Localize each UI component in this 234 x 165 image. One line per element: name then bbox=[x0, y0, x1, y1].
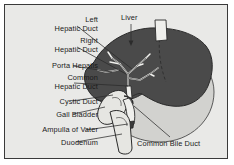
label-common-hepatic-duct: Common Hepatic Duct bbox=[10, 74, 98, 91]
label-line-1: Cystic Duct bbox=[10, 98, 98, 107]
label-porta-hepatis: Porta Hepatis bbox=[10, 62, 98, 71]
label-line-1: Common Bile Duct bbox=[137, 140, 229, 149]
label-gall-bladder: Gall Bladder bbox=[10, 111, 98, 120]
label-line-1: Ampulla of Vater bbox=[4, 126, 98, 135]
label-common-bile-duct: Common Bile Duct bbox=[137, 140, 229, 149]
label-ampulla-of-vater: Ampulla of Vater bbox=[4, 126, 98, 135]
duodenum-shape bbox=[110, 110, 132, 154]
liver-body bbox=[84, 28, 212, 106]
label-cystic-duct: Cystic Duct bbox=[10, 98, 98, 107]
label-line-1: Liver bbox=[121, 14, 161, 23]
label-duodenum: Duodenum bbox=[10, 139, 98, 148]
label-line-1: Gall Bladder bbox=[10, 111, 98, 120]
label-line-2: Hepatic Duct bbox=[10, 46, 98, 55]
vena-cava bbox=[155, 20, 167, 41]
anatomy-figure: Left Hepatic Duct Right Hepatic Duct Por… bbox=[0, 0, 234, 165]
label-liver: Liver bbox=[121, 14, 161, 23]
label-line-1: Porta Hepatis bbox=[10, 62, 98, 71]
label-line-2: Hepatic Duct bbox=[10, 83, 98, 92]
label-line-2: Hepatic Duct bbox=[10, 25, 98, 34]
label-right-hepatic-duct: Right Hepatic Duct bbox=[10, 37, 98, 54]
label-line-1: Duodenum bbox=[10, 139, 98, 148]
label-left-hepatic-duct: Left Hepatic Duct bbox=[10, 16, 98, 33]
